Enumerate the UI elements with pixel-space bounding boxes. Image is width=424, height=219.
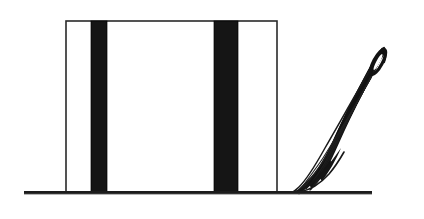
ground-baseline <box>24 193 372 195</box>
figure-canvas: Black and white line drawing of a framed… <box>0 0 424 219</box>
right-black-bar <box>214 21 238 193</box>
right-black-bar-fill <box>214 21 238 193</box>
line-drawing-svg <box>0 0 424 219</box>
canvas-background <box>0 0 424 219</box>
left-black-bar-fill <box>91 21 107 193</box>
left-black-bar <box>91 21 107 193</box>
